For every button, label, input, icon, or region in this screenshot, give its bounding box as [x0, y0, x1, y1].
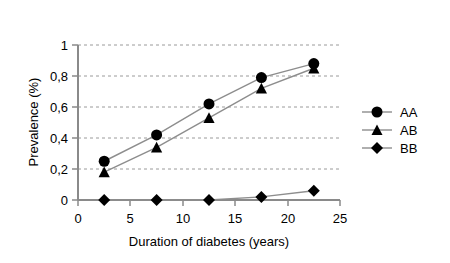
prevalence-line-chart: 1 0,8 0,6 0,4 0,2 0 0 5 10 15 20 25 Dura…	[0, 0, 450, 263]
y-tick-label-1: 1	[61, 38, 68, 53]
legend-circle-icon	[372, 107, 383, 118]
x-tick-label-15: 15	[228, 211, 242, 226]
x-tick-label-20: 20	[281, 211, 295, 226]
y-tick-label-0-6: 0,6	[50, 100, 68, 115]
x-axis-title: Duration of diabetes (years)	[129, 234, 289, 249]
x-tick-label-10: 10	[176, 211, 190, 226]
data-point-AA-3	[204, 98, 215, 109]
legend-label-BB: BB	[400, 141, 417, 156]
y-axis-title: Prevalence (%)	[26, 78, 41, 167]
legend-label-AB: AB	[400, 123, 417, 138]
legend-label-AA: AA	[400, 105, 418, 120]
data-point-AA-2	[151, 129, 162, 140]
y-tick-label-0-8: 0,8	[50, 69, 68, 84]
y-tick-label-0-2: 0,2	[50, 162, 68, 177]
x-tick-label-25: 25	[333, 211, 347, 226]
data-point-AA-4	[256, 72, 267, 83]
chart-legend: AA AB BB	[362, 105, 418, 156]
y-tick-label-0: 0	[61, 193, 68, 208]
y-tick-label-0-4: 0,4	[50, 131, 68, 146]
data-point-AA-1	[99, 156, 110, 167]
chart-figure: 1 0,8 0,6 0,4 0,2 0 0 5 10 15 20 25 Dura…	[0, 0, 450, 263]
x-tick-label-5: 5	[126, 211, 133, 226]
x-tick-label-0: 0	[74, 211, 81, 226]
